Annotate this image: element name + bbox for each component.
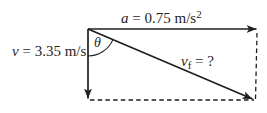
theta-symbol: θ	[94, 35, 101, 50]
acceleration-label: a = 0.75 m/s2	[121, 8, 202, 26]
vector-diagram-canvas: a = 0.75 m/s2 v = 3.35 m/s vf = ? θ	[0, 0, 267, 113]
right-dashed-edge	[256, 33, 258, 100]
acceleration-symbol: a	[121, 10, 129, 26]
initial-velocity-value: = 3.35 m/s	[19, 43, 87, 59]
final-velocity-value: = ?	[191, 53, 214, 69]
angle-label: θ	[94, 35, 101, 50]
initial-velocity-label: v = 3.35 m/s	[12, 43, 86, 59]
final-velocity-label: vf = ?	[181, 53, 214, 71]
acceleration-superscript: 2	[196, 8, 202, 20]
final-velocity-vector	[88, 29, 253, 99]
vector-diagram: a = 0.75 m/s2 v = 3.35 m/s vf = ? θ	[0, 0, 267, 113]
acceleration-value: = 0.75 m/s	[129, 10, 197, 26]
